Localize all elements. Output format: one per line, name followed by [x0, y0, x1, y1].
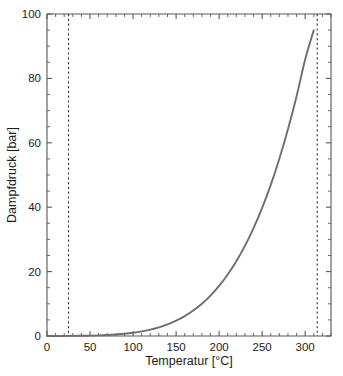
x-tick-label: 0	[44, 341, 50, 353]
y-axis-title: Dampfdruck [bar]	[5, 127, 19, 223]
vapor-pressure-chart: 050100150200250300 020406080100 Temperat…	[0, 0, 343, 376]
y-tick-label: 0	[35, 330, 41, 342]
y-tick-label: 100	[22, 8, 41, 20]
x-tick-label: 300	[296, 341, 315, 353]
y-tick-label: 40	[28, 201, 41, 213]
x-tick-label: 100	[123, 341, 142, 353]
y-tick-label: 60	[28, 137, 41, 149]
x-tick-label: 50	[84, 341, 97, 353]
x-tick-label: 250	[253, 341, 272, 353]
chart-background	[0, 0, 343, 376]
x-axis-title: Temperatur [°C]	[145, 354, 233, 368]
x-tick-label: 150	[166, 341, 185, 353]
y-tick-label: 20	[28, 266, 41, 278]
x-tick-label: 200	[210, 341, 229, 353]
chart-canvas: 050100150200250300 020406080100 Temperat…	[0, 0, 343, 376]
y-tick-label: 80	[28, 72, 41, 84]
